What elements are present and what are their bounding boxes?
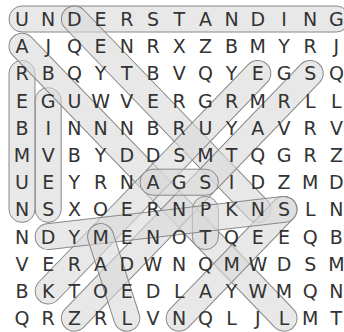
grid-cell[interactable]: T — [61, 278, 87, 304]
grid-cell[interactable]: R — [9, 60, 35, 86]
grid-cell[interactable]: A — [192, 6, 218, 32]
grid-cell[interactable]: G — [271, 60, 297, 86]
grid-cell[interactable]: J — [35, 33, 61, 59]
grid-cell[interactable]: V — [114, 88, 140, 114]
grid-cell[interactable]: A — [192, 278, 218, 304]
grid-cell[interactable]: E — [114, 224, 140, 250]
grid-cell[interactable]: D — [245, 6, 271, 32]
grid-cell[interactable]: T — [192, 224, 218, 250]
grid-cell[interactable]: W — [88, 88, 114, 114]
grid-cell[interactable]: D — [35, 224, 61, 250]
grid-cell[interactable]: J — [323, 33, 344, 59]
grid-cell[interactable]: T — [166, 6, 192, 32]
grid-cell[interactable]: E — [114, 278, 140, 304]
grid-cell[interactable]: O — [88, 196, 114, 222]
grid-cell[interactable]: D — [140, 278, 166, 304]
grid-cell[interactable]: E — [271, 224, 297, 250]
grid-cell[interactable]: Q — [192, 60, 218, 86]
grid-cell[interactable]: Y — [61, 224, 87, 250]
grid-cell[interactable]: R — [219, 88, 245, 114]
grid-cell[interactable]: K — [219, 196, 245, 222]
grid-cell[interactable]: N — [88, 115, 114, 141]
grid-cell[interactable]: M — [192, 142, 218, 168]
grid-cell[interactable]: N — [323, 196, 344, 222]
grid-cell[interactable]: S — [140, 6, 166, 32]
grid-cell[interactable]: E — [9, 88, 35, 114]
grid-cell[interactable]: R — [297, 115, 323, 141]
grid-cell[interactable]: D — [271, 251, 297, 277]
grid-cell[interactable]: E — [88, 33, 114, 59]
grid-cell[interactable]: G — [192, 88, 218, 114]
grid-cell[interactable]: R — [88, 305, 114, 331]
grid-cell[interactable]: M — [271, 278, 297, 304]
grid-cell[interactable]: R — [297, 33, 323, 59]
grid-cell[interactable]: R — [271, 88, 297, 114]
grid-cell[interactable]: N — [61, 115, 87, 141]
grid-cell[interactable]: Q — [192, 305, 218, 331]
grid-cell[interactable]: E — [140, 88, 166, 114]
grid-cell[interactable]: R — [166, 88, 192, 114]
grid-cell[interactable]: G — [323, 6, 344, 32]
grid-cell[interactable]: Q — [297, 224, 323, 250]
grid-cell[interactable]: V — [35, 142, 61, 168]
grid-cell[interactable]: M — [297, 169, 323, 195]
grid-cell[interactable]: R — [140, 33, 166, 59]
grid-cell[interactable]: M — [9, 142, 35, 168]
grid-cell[interactable]: Z — [271, 169, 297, 195]
grid-cell[interactable]: E — [35, 251, 61, 277]
grid-cell[interactable]: D — [61, 6, 87, 32]
grid-cell[interactable]: Y — [271, 33, 297, 59]
grid-cell[interactable]: E — [35, 169, 61, 195]
grid-cell[interactable]: M — [88, 224, 114, 250]
grid-cell[interactable]: W — [245, 251, 271, 277]
grid-cell[interactable]: M — [245, 88, 271, 114]
grid-cell[interactable]: L — [297, 196, 323, 222]
grid-cell[interactable]: E — [245, 224, 271, 250]
grid-cell[interactable]: E — [245, 60, 271, 86]
grid-cell[interactable]: R — [114, 6, 140, 32]
grid-cell[interactable]: B — [140, 115, 166, 141]
grid-cell[interactable]: U — [61, 88, 87, 114]
grid-cell[interactable]: T — [219, 142, 245, 168]
grid-cell[interactable]: Z — [192, 33, 218, 59]
grid-cell[interactable]: B — [9, 115, 35, 141]
grid-cell[interactable]: V — [9, 251, 35, 277]
grid-cell[interactable]: U — [192, 115, 218, 141]
grid-cell[interactable]: U — [9, 6, 35, 32]
grid-cell[interactable]: B — [323, 224, 344, 250]
grid-cell[interactable]: E — [114, 196, 140, 222]
grid-cell[interactable]: L — [271, 305, 297, 331]
grid-cell[interactable]: Q — [323, 60, 344, 86]
grid-cell[interactable]: V — [323, 115, 344, 141]
grid-cell[interactable]: S — [271, 196, 297, 222]
grid-cell[interactable]: N — [219, 6, 245, 32]
grid-cell[interactable]: N — [9, 224, 35, 250]
grid-cell[interactable]: Y — [88, 142, 114, 168]
grid-cell[interactable]: M — [245, 33, 271, 59]
grid-cell[interactable]: D — [323, 169, 344, 195]
grid-cell[interactable]: N — [114, 169, 140, 195]
grid-cell[interactable]: L — [166, 278, 192, 304]
grid-cell[interactable]: N — [114, 115, 140, 141]
grid-cell[interactable]: N — [114, 33, 140, 59]
grid-cell[interactable]: G — [35, 88, 61, 114]
grid-cell[interactable]: D — [114, 251, 140, 277]
grid-cell[interactable]: X — [61, 196, 87, 222]
grid-cell[interactable]: A — [88, 251, 114, 277]
grid-cell[interactable]: Q — [9, 305, 35, 331]
grid-cell[interactable]: B — [9, 278, 35, 304]
grid-cell[interactable]: R — [297, 142, 323, 168]
grid-cell[interactable]: Q — [297, 278, 323, 304]
grid-cell[interactable]: X — [166, 33, 192, 59]
grid-cell[interactable]: R — [88, 169, 114, 195]
grid-cell[interactable]: B — [61, 142, 87, 168]
grid-cell[interactable]: M — [219, 251, 245, 277]
grid-cell[interactable]: S — [166, 142, 192, 168]
grid-cell[interactable]: O — [166, 224, 192, 250]
grid-cell[interactable]: Q — [192, 251, 218, 277]
grid-cell[interactable]: L — [114, 305, 140, 331]
grid-cell[interactable]: G — [271, 142, 297, 168]
grid-cell[interactable]: L — [297, 88, 323, 114]
grid-cell[interactable]: D — [245, 169, 271, 195]
grid-cell[interactable]: A — [140, 169, 166, 195]
